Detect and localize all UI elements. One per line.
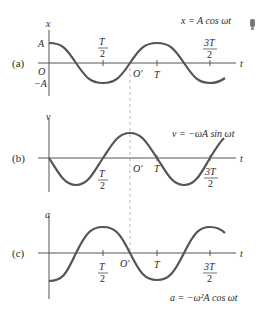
tick-label-T: T [154, 69, 161, 80]
tick-label-3T2-den: 2 [207, 49, 212, 60]
panel-label-b: (b) [12, 152, 25, 165]
tick-label-T2-den: 2 [100, 48, 105, 59]
tick-label-T: T [154, 163, 161, 174]
panel-a: (a) x A O −A T 2 O′ T 3T 2 t x = A cos ω… [12, 15, 243, 96]
tick-label-T2-num: T [99, 36, 106, 47]
equation-acceleration: a = −ω²A cos ωt [170, 292, 238, 303]
tick-label-3T2-num: 3T [204, 166, 217, 177]
tick-label-3T2-den: 2 [207, 273, 212, 284]
t-axis-label: t [240, 58, 243, 69]
amplitude-label-A: A [37, 38, 45, 49]
origin-prime-label: O′ [133, 68, 143, 79]
t-axis-label: t [240, 153, 243, 164]
tick-label-T: T [154, 259, 161, 270]
y-axis-label-x: x [45, 18, 51, 29]
tick-label-3T2-den: 2 [208, 178, 213, 189]
tick-label-3T2-num: 3T [203, 261, 216, 272]
origin-prime-label: O′ [120, 258, 130, 269]
tick-label-3T2-num: 3T [203, 37, 216, 48]
equation-velocity: v = −ωA sin ωt [172, 128, 235, 139]
origin-prime-label: O′ [133, 163, 143, 174]
shm-figure: (a) x A O −A T 2 O′ T 3T 2 t x = A cos ω… [0, 0, 258, 321]
panel-label-a: (a) [12, 57, 25, 70]
panel-b: (b) v T 2 O′ T 3T 2 t v = −ωA sin ωt [12, 111, 243, 192]
amplitude-label-negA: −A [34, 78, 48, 89]
tick-label-T2-num: T [99, 168, 106, 179]
tick-label-T2-den: 2 [100, 273, 105, 284]
origin-label-O: O [38, 66, 45, 77]
tick-label-T2-num: T [99, 261, 106, 272]
acceleration-curve [49, 227, 225, 281]
tick-label-T2-den: 2 [100, 180, 105, 191]
panel-c: (c) a T 2 O′ T 3T 2 t a = −ω²A cos ωt [12, 209, 243, 303]
y-axis-label-a: a [45, 209, 50, 220]
equation-position: x = A cos ωt [180, 15, 231, 26]
y-axis-label-v: v [46, 111, 51, 122]
panel-label-c: (c) [12, 247, 25, 260]
t-axis-label: t [240, 248, 243, 259]
velocity-curve [49, 133, 224, 185]
bulb-icon [250, 19, 255, 30]
